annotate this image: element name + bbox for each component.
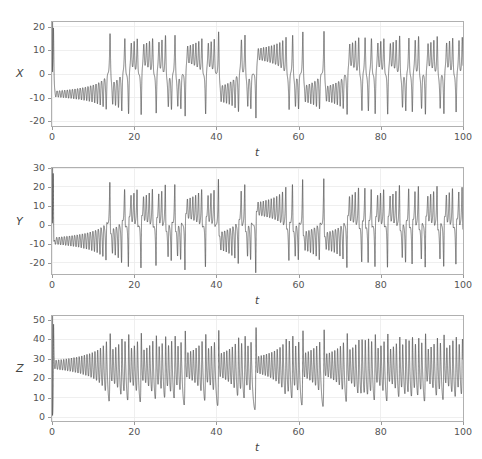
- x-tick-label: 40: [196, 280, 236, 290]
- panel-z-plot-area: [52, 316, 463, 421]
- y-tick-mark: [48, 27, 51, 28]
- x-tick-label: 80: [361, 280, 401, 290]
- x-tick-label: 20: [114, 132, 154, 142]
- data-line-z: [52, 324, 463, 415]
- x-tick-label: 60: [279, 427, 319, 437]
- x-tick-mark: [52, 422, 53, 425]
- y-tick-mark: [48, 378, 51, 379]
- x-tick-label: 60: [279, 280, 319, 290]
- y-tick-label: -10: [9, 93, 45, 103]
- x-tick-label: 0: [32, 280, 72, 290]
- y-tick-label: 10: [9, 45, 45, 55]
- y-tick-mark: [48, 206, 51, 207]
- x-tick-mark: [381, 275, 382, 278]
- x-tick-mark: [381, 127, 382, 130]
- x-tick-mark: [134, 275, 135, 278]
- lorenz-figure: X -20-1001020020406080100 t Y -20-100102…: [0, 0, 482, 459]
- x-tick-mark: [299, 275, 300, 278]
- x-tick-label: 60: [279, 132, 319, 142]
- y-tick-label: 10: [9, 201, 45, 211]
- y-tick-label: 10: [9, 393, 45, 403]
- y-tick-mark: [48, 187, 51, 188]
- y-tick-label: 30: [9, 163, 45, 173]
- x-tick-mark: [381, 422, 382, 425]
- x-tick-mark: [216, 127, 217, 130]
- y-tick-mark: [48, 339, 51, 340]
- y-tick-label: 0: [9, 220, 45, 230]
- x-tick-label: 100: [443, 427, 482, 437]
- x-tick-label: 40: [196, 132, 236, 142]
- x-tick-label: 20: [114, 427, 154, 437]
- y-tick-mark: [48, 50, 51, 51]
- y-tick-mark: [48, 168, 51, 169]
- x-tick-label: 80: [361, 132, 401, 142]
- panel-y-plot-area: [52, 168, 463, 274]
- y-tick-mark: [48, 98, 51, 99]
- y-tick-mark: [48, 121, 51, 122]
- y-tick-mark: [48, 320, 51, 321]
- y-tick-label: -20: [9, 116, 45, 126]
- y-tick-mark: [48, 225, 51, 226]
- x-tick-mark: [299, 127, 300, 130]
- x-tick-mark: [299, 422, 300, 425]
- y-tick-label: -10: [9, 239, 45, 249]
- y-tick-mark: [48, 74, 51, 75]
- y-tick-label: 20: [9, 373, 45, 383]
- y-tick-mark: [48, 359, 51, 360]
- x-tick-label: 80: [361, 427, 401, 437]
- data-line-y: [52, 173, 463, 272]
- y-tick-label: -20: [9, 258, 45, 268]
- x-tick-mark: [52, 275, 53, 278]
- y-tick-mark: [48, 244, 51, 245]
- panel-x-axes: [51, 21, 464, 127]
- x-tick-label: 0: [32, 132, 72, 142]
- x-tick-mark: [216, 275, 217, 278]
- y-tick-label: 0: [9, 412, 45, 422]
- y-tick-label: 30: [9, 354, 45, 364]
- y-tick-label: 40: [9, 334, 45, 344]
- x-tick-mark: [463, 275, 464, 278]
- data-line-x: [52, 28, 463, 118]
- panel-x-plot-area: [52, 22, 463, 126]
- panel-y-xlabel: t: [227, 295, 287, 306]
- x-tick-mark: [134, 127, 135, 130]
- y-tick-label: 20: [9, 22, 45, 32]
- y-tick-label: 50: [9, 315, 45, 325]
- y-tick-label: 0: [9, 69, 45, 79]
- x-tick-mark: [52, 127, 53, 130]
- panel-z-xlabel: t: [227, 442, 287, 453]
- x-tick-mark: [463, 422, 464, 425]
- panel-z-axes: [51, 315, 464, 422]
- y-tick-mark: [48, 263, 51, 264]
- x-tick-label: 0: [32, 427, 72, 437]
- x-tick-mark: [463, 127, 464, 130]
- x-tick-label: 100: [443, 280, 482, 290]
- x-tick-label: 20: [114, 280, 154, 290]
- y-tick-mark: [48, 417, 51, 418]
- panel-y-axes: [51, 167, 464, 275]
- x-tick-mark: [134, 422, 135, 425]
- y-tick-mark: [48, 398, 51, 399]
- x-tick-label: 100: [443, 132, 482, 142]
- y-tick-label: 20: [9, 182, 45, 192]
- x-tick-label: 40: [196, 427, 236, 437]
- x-tick-mark: [216, 422, 217, 425]
- panel-x-xlabel: t: [227, 147, 287, 158]
